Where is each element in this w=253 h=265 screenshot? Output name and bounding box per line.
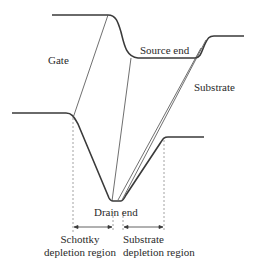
band-diagram-svg bbox=[0, 0, 253, 265]
substrate-line-1 bbox=[118, 48, 201, 200]
drain-end-label: Drain end bbox=[94, 206, 138, 218]
gate-label: Gate bbox=[48, 54, 69, 66]
lower-band-curve bbox=[12, 113, 204, 201]
substrate-dimension-arrow bbox=[124, 226, 163, 229]
source-end-label: Source end bbox=[140, 44, 189, 56]
substrate-depletion-label-line1: Substrate bbox=[123, 233, 164, 245]
schottky-label-line1: Schottky bbox=[44, 233, 116, 245]
band-diagram: Gate Source end Substrate Drain end Scho… bbox=[0, 0, 253, 265]
substrate-depletion-label-line2: depletion region bbox=[123, 246, 195, 258]
schottky-dimension-arrow bbox=[74, 226, 112, 229]
gate-connector-line bbox=[73, 15, 108, 118]
substrate-label: Substrate bbox=[194, 81, 235, 93]
schottky-label-line2: depletion region bbox=[44, 246, 116, 258]
source-drain-line bbox=[112, 58, 131, 201]
